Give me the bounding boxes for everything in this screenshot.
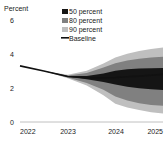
y-tick-4: 4 — [10, 51, 14, 58]
legend-label-90: 90 percent — [69, 26, 102, 34]
legend-item-80-percent: 80 percent — [62, 17, 102, 25]
x-tick-2023: 2023 — [60, 128, 76, 135]
chart-svg: Percent 6 4 2 0 2022 2023 2024 2025 50 p… — [0, 0, 164, 142]
y-axis-title: Percent — [4, 5, 28, 12]
legend-swatch-icon-50 — [62, 9, 68, 14]
legend-swatch-icon-80 — [62, 18, 68, 23]
y-tick-2: 2 — [10, 85, 14, 92]
legend: 50 percent 80 percent 90 percent Baselin… — [61, 8, 102, 42]
legend-item-50-percent: 50 percent — [62, 8, 102, 16]
legend-swatch-icon-90 — [62, 27, 68, 32]
y-tick-6: 6 — [10, 17, 14, 24]
legend-item-baseline: Baseline — [61, 35, 96, 42]
x-tick-2025: 2025 — [147, 128, 163, 135]
fan-chart: Percent 6 4 2 0 2022 2023 2024 2025 50 p… — [0, 0, 164, 142]
x-tick-2024: 2024 — [108, 128, 124, 135]
legend-label-50: 50 percent — [69, 8, 102, 16]
legend-item-90-percent: 90 percent — [62, 26, 102, 34]
legend-label-baseline: Baseline — [69, 35, 96, 42]
x-tick-2022: 2022 — [20, 128, 36, 135]
legend-line-icon-baseline — [61, 37, 69, 39]
legend-label-80: 80 percent — [69, 17, 102, 25]
y-tick-0: 0 — [10, 119, 14, 126]
